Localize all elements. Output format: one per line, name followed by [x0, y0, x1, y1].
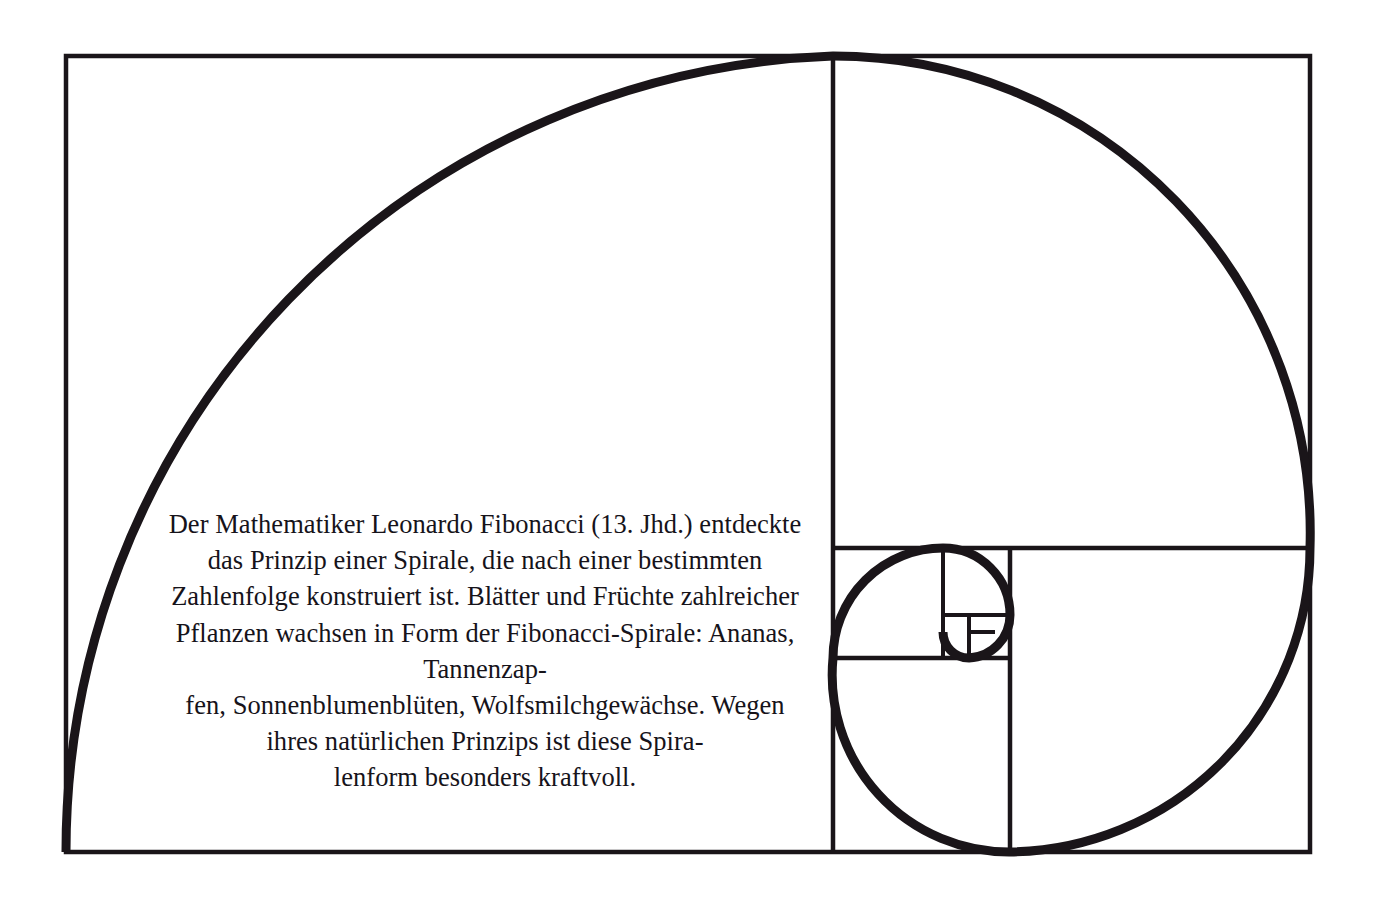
figure-canvas: Der Mathematiker Leonardo Fibonacci (13.…	[0, 0, 1378, 902]
fibonacci-caption-text: Der Mathematiker Leonardo Fibonacci (13.…	[160, 506, 810, 796]
